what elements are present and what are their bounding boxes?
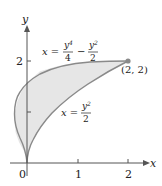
svg-text:2: 2: [83, 114, 89, 124]
x-axis-arrow-icon: [143, 160, 150, 166]
point-label: (2, 2): [121, 64, 148, 75]
region-diagram: 0 1 2 2 x y (2, 2) x = y4 4 − y2 2 x = y…: [0, 0, 162, 186]
y-axis-arrow-icon: [24, 25, 30, 32]
quartic-equation: x = y4 4 − y2 2: [42, 39, 98, 63]
svg-text:y2: y2: [88, 39, 98, 50]
point-marker: [125, 58, 130, 63]
svg-text:y4: y4: [63, 39, 73, 50]
svg-text:2: 2: [90, 53, 96, 63]
svg-text:−: −: [77, 46, 85, 57]
svg-text:x =: x =: [42, 46, 59, 57]
svg-text:4: 4: [65, 53, 71, 63]
parabola-equation: x = y2 2: [61, 100, 91, 124]
y-axis-label: y: [21, 13, 29, 26]
x-axis-label: x: [150, 157, 157, 170]
svg-text:y2: y2: [81, 100, 91, 111]
x-tick-label-2: 2: [125, 168, 132, 181]
y-tick-label-2: 2: [16, 55, 23, 68]
svg-text:x =: x =: [61, 107, 78, 118]
x-tick-label-1: 1: [75, 168, 82, 181]
x-tick-label-0: 0: [19, 168, 26, 181]
